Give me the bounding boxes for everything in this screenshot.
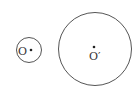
large-circle-center-dot xyxy=(93,46,96,49)
two-circles-diagram: O O′ xyxy=(0,0,138,91)
small-circle-center-label: O xyxy=(18,45,27,58)
large-circle-center-label: O′ xyxy=(89,50,101,63)
large-circle xyxy=(59,13,132,86)
small-circle-group: O xyxy=(17,38,42,63)
large-circle-group: O′ xyxy=(59,13,132,86)
small-circle-center-dot xyxy=(30,49,33,52)
